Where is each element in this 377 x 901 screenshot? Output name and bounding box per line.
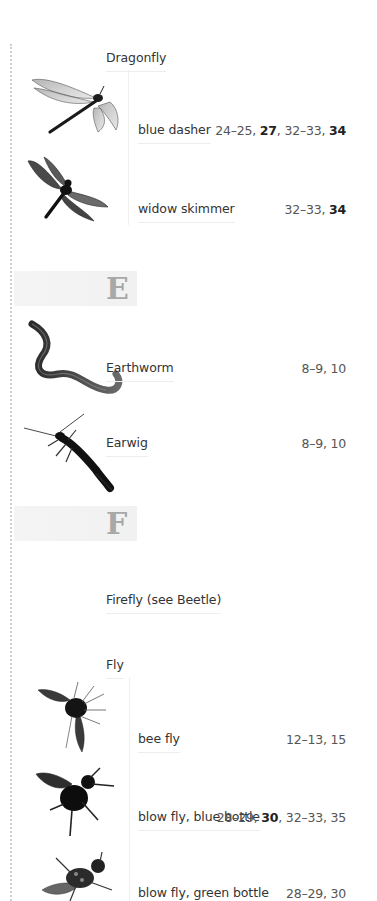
subentry-connector-line: [128, 70, 129, 225]
green-bottle-fly-photo: [40, 852, 120, 901]
dragonfly-blue-dasher-photo: [28, 68, 123, 136]
page-ref[interactable]: , 32–33,: [277, 123, 329, 138]
page-ref[interactable]: , 32–33, 35: [278, 810, 346, 825]
page-ref-bold[interactable]: 34: [329, 202, 346, 217]
page-refs-earthworm: 8–9, 10: [301, 361, 346, 376]
page-ref[interactable]: 12–13, 15: [286, 732, 346, 747]
letter-heading-f: F: [106, 506, 127, 541]
index-entry-fly[interactable]: Fly: [106, 657, 124, 679]
page-ref-bold[interactable]: 34: [329, 123, 346, 138]
earwig-photo: [22, 412, 114, 490]
page-ref-bold[interactable]: 27: [260, 123, 277, 138]
page-refs-widow-skimmer: 32–33, 34: [284, 202, 346, 217]
page-ref-bold[interactable]: 30: [261, 810, 278, 825]
page-refs-earwig: 8–9, 10: [301, 436, 346, 451]
page-ref[interactable]: 28–29,: [217, 810, 262, 825]
page-refs-blue-bottle: 28–29, 30, 32–33, 35: [217, 810, 346, 825]
page-ref[interactable]: 8–9, 10: [301, 436, 346, 451]
page-refs-green-bottle: 28–29, 30: [286, 886, 346, 901]
index-entry-earwig[interactable]: Earwig: [106, 435, 148, 457]
subentry-connector-line: [129, 677, 130, 901]
blue-bottle-fly-photo: [34, 766, 118, 838]
index-subentry-bee-fly[interactable]: bee fly: [138, 731, 180, 753]
index-subentry-blow-fly-green-bottle[interactable]: blow fly, green bottle: [138, 885, 269, 901]
dragonfly-widow-skimmer-photo: [24, 155, 114, 225]
page-refs-blue-dasher: 24–25, 27, 32–33, 34: [215, 123, 346, 138]
page-margin-dotted-rule: [10, 44, 12, 901]
index-subentry-widow-skimmer[interactable]: widow skimmer: [138, 201, 235, 223]
index-entry-firefly-see-beetle[interactable]: Firefly (see Beetle): [106, 592, 221, 614]
index-entry-earthworm[interactable]: Earthworm: [106, 360, 174, 382]
page-ref[interactable]: 32–33,: [284, 202, 329, 217]
page-ref[interactable]: 28–29, 30: [286, 886, 346, 901]
index-subentry-blue-dasher[interactable]: blue dasher: [138, 122, 211, 144]
page-ref[interactable]: 8–9, 10: [301, 361, 346, 376]
page-ref[interactable]: 24–25,: [215, 123, 260, 138]
bee-fly-photo: [36, 682, 116, 754]
page-refs-bee-fly: 12–13, 15: [286, 732, 346, 747]
letter-heading-e: E: [106, 271, 129, 306]
